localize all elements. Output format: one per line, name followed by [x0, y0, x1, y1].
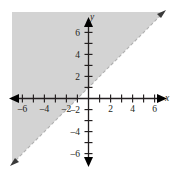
y-tick-label--4: –4 — [70, 127, 81, 137]
y-axis-label: y — [89, 12, 95, 22]
x-tick-label-6: 6 — [152, 104, 157, 114]
inequality-graph: –6 –4 –2 2 4 6 6 4 2 –2 –4 –6 x y — [0, 0, 176, 175]
boundary-arrow-lower-left — [10, 158, 19, 166]
y-axis-arrow-bottom — [84, 157, 93, 167]
coordinate-plane-figure: –6 –4 –2 2 4 6 6 4 2 –2 –4 –6 x y — [0, 0, 176, 175]
x-tick-label-2: 2 — [108, 104, 113, 114]
y-tick-label-4: 4 — [75, 50, 80, 60]
x-tick-label--6: –6 — [17, 104, 28, 114]
y-tick-label--2: –2 — [70, 105, 81, 115]
x-tick-label--4: –4 — [39, 104, 50, 114]
x-tick-label-4: 4 — [130, 104, 135, 114]
y-tick-label--6: –6 — [70, 149, 81, 159]
y-tick-label-2: 2 — [75, 72, 80, 82]
y-tick-label-6: 6 — [75, 28, 80, 38]
x-axis-label: x — [164, 93, 170, 103]
